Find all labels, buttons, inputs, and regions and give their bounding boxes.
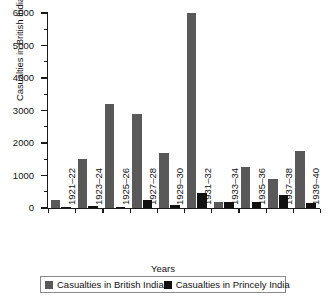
x-tick-label: 1933–34 — [230, 168, 240, 214]
legend-label: Casualties in Princely India — [176, 280, 290, 290]
bar-chart: Casualties in British India 010002000300… — [0, 0, 326, 304]
y-tick-label: 1000 — [0, 171, 34, 181]
x-tick-label: 1929–30 — [175, 168, 185, 214]
bar-british-india — [295, 151, 305, 208]
y-tick-label: 6000 — [0, 8, 34, 18]
bar-british-india — [105, 104, 115, 208]
legend-label: Casualties in British India — [57, 280, 164, 290]
bar-british-india — [132, 114, 142, 208]
x-tick-label: 1931–32 — [203, 168, 213, 214]
chart-legend: Casualties in British IndiaCasualties in… — [40, 276, 286, 293]
y-tick-major — [41, 45, 47, 46]
bar-british-india — [159, 153, 169, 208]
bar-british-india — [51, 200, 61, 208]
y-tick-minor — [44, 159, 48, 160]
bar-british-india — [187, 13, 197, 208]
x-tick-label: 1937–38 — [284, 168, 294, 214]
y-tick-label: 4000 — [0, 73, 34, 83]
y-tick-major — [41, 142, 47, 143]
y-tick-major — [41, 12, 47, 13]
y-tick-minor — [44, 126, 48, 127]
x-tick-label: 1935–36 — [257, 168, 267, 214]
y-tick-major — [41, 77, 47, 78]
y-tick-label: 2000 — [0, 138, 34, 148]
y-tick-major — [41, 207, 47, 208]
y-axis-title: Casualties in British India — [13, 0, 27, 139]
y-tick-minor — [44, 94, 48, 95]
bar-british-india — [241, 167, 251, 208]
legend-item: Casualties in British India — [45, 280, 164, 290]
y-tick-major — [41, 110, 47, 111]
legend-swatch-icon — [45, 281, 53, 289]
bar-british-india — [78, 159, 88, 208]
x-tick-label: 1921–22 — [67, 168, 77, 214]
x-tick-label: 1939–40 — [311, 168, 321, 214]
x-axis-title: Years — [0, 263, 326, 274]
bar-british-india — [214, 202, 224, 209]
y-tick-major — [41, 175, 47, 176]
y-tick-minor — [44, 29, 48, 30]
legend-item: Casualties in Princely India — [164, 280, 290, 290]
x-tick-label: 1925–26 — [121, 168, 131, 214]
bar-british-india — [268, 179, 278, 208]
x-tick-label: 1923–24 — [94, 168, 104, 214]
y-tick-minor — [44, 61, 48, 62]
y-tick-label: 0 — [0, 203, 34, 213]
y-tick-label: 3000 — [0, 106, 34, 116]
y-tick-label: 5000 — [0, 41, 34, 51]
x-tick-label: 1927–28 — [148, 168, 158, 214]
legend-swatch-icon — [164, 281, 172, 289]
y-tick-minor — [44, 191, 48, 192]
x-tick — [48, 209, 49, 213]
